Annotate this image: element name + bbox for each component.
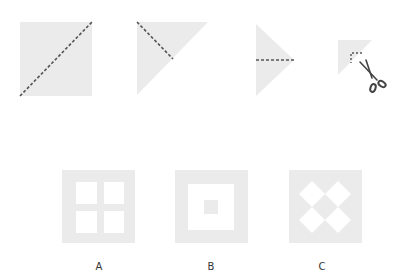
step-2-triangle xyxy=(137,22,208,95)
option-b-label: B xyxy=(208,261,215,272)
step-3-triangle xyxy=(256,24,294,96)
step-1-square xyxy=(20,22,92,96)
paper-folding-diagram xyxy=(0,0,394,274)
option-a-label: A xyxy=(96,261,103,272)
option-c-shape[interactable] xyxy=(289,170,362,243)
scissors-icon xyxy=(360,60,387,93)
option-c-label: C xyxy=(319,261,326,272)
option-a-shape[interactable] xyxy=(62,170,135,243)
option-b-shape[interactable] xyxy=(175,170,248,243)
